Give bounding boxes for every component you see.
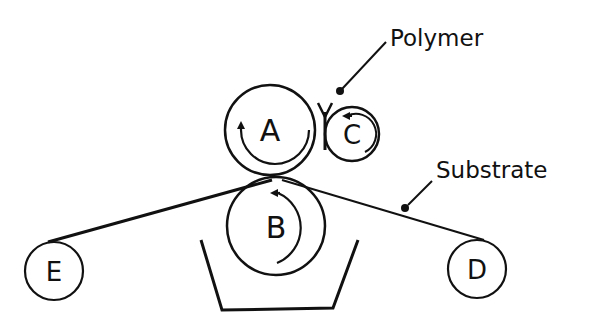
roll-d: D: [448, 240, 506, 298]
roll-c-label: C: [343, 120, 361, 150]
polymer-annotation: Polymer: [336, 25, 484, 95]
polymer-nip: [318, 103, 332, 150]
leader-dot-icon: [401, 204, 409, 212]
roll-a: A: [225, 85, 315, 175]
roll-d-label: D: [467, 255, 487, 285]
roll-c: C: [325, 107, 379, 161]
roll-b-label: B: [266, 210, 287, 245]
polymer-label: Polymer: [390, 25, 484, 51]
roll-coating-diagram: A C B E D Polymer Substrate: [0, 0, 591, 327]
substrate-annotation: Substrate: [401, 157, 548, 212]
roll-e: E: [25, 242, 83, 300]
roll-e-label: E: [46, 257, 62, 287]
leader-dot-icon: [336, 87, 344, 95]
substrate-label: Substrate: [436, 157, 548, 183]
roll-a-label: A: [260, 113, 281, 148]
roll-b: B: [227, 177, 325, 275]
